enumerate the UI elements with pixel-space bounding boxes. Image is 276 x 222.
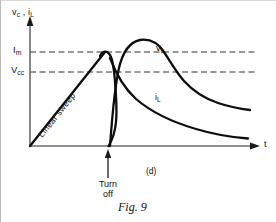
annotation-turn-off-line1: Turn: [99, 179, 117, 189]
plot-canvas: [0, 0, 276, 222]
curve-label-il-subscript: L: [157, 96, 161, 103]
curve-label-il: iL: [155, 93, 161, 103]
figure-caption-text: Fig. 9: [118, 200, 147, 214]
curve-label-vc: vc: [156, 44, 164, 54]
y-axis-label-il-subscript: L: [30, 11, 34, 18]
panel-label: (d): [146, 167, 156, 176]
curve-label-vc-subscript: c: [161, 47, 164, 54]
y-axis-label: vc , iL: [12, 8, 34, 18]
y-tick-im-subscript: m: [16, 49, 22, 56]
y-tick-label-im: Im: [13, 45, 21, 57]
figure-container: vc , iL t Im Vcc vc iL Linear sweep Turn…: [0, 0, 276, 222]
curve-il-decay-tail: [110, 58, 248, 139]
panel-label-text: (d): [146, 166, 156, 176]
annotation-turn-off-line2: off: [103, 189, 113, 199]
annotation-turn-off: Turn off: [88, 179, 128, 200]
figure-caption: Fig. 9: [118, 201, 147, 213]
y-tick-label-vcc: Vcc: [11, 65, 24, 77]
x-axis-label-text: t: [264, 139, 267, 149]
y-tick-vcc-subscript: cc: [17, 69, 24, 76]
turn-off-arrowhead: [105, 149, 111, 158]
x-axis-arrowhead: [250, 143, 260, 150]
x-axis-label: t: [264, 140, 267, 149]
y-axis-label-separator: ,: [20, 7, 28, 17]
